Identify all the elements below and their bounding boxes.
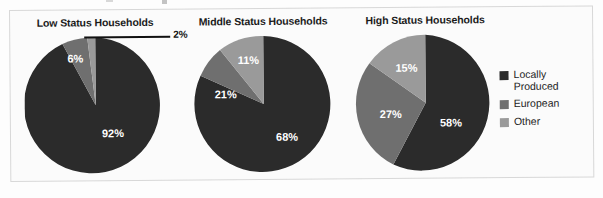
pie-value-label-european: 27% xyxy=(380,108,402,120)
pie-value-label-locally-produced: 68% xyxy=(276,131,298,143)
pie-value-label-other: 11% xyxy=(238,54,260,66)
legend-label-european: European xyxy=(514,98,560,110)
pie-graphic-low-status: 92% 6% xyxy=(24,34,167,177)
pie-svg-low-status: 92% 6% xyxy=(24,34,167,177)
pie-value-label-locally-produced: 58% xyxy=(440,116,462,128)
pie-chart-high-status: High Status Households 58% 27% 15% xyxy=(340,7,511,180)
figure-content: Low Status Households 92% 6% xyxy=(10,6,595,183)
legend-label-locally-produced: Locally Produced xyxy=(513,69,558,92)
top-text-remnant xyxy=(162,0,167,4)
legend-swatch-locally-produced xyxy=(499,71,508,80)
pie-svg-high-status: 58% 27% 15% xyxy=(354,31,497,174)
chart-title-middle-status: Middle Status Households xyxy=(178,14,348,27)
pie-value-label-other: 15% xyxy=(395,62,417,74)
pie-value-label-locally-produced: 92% xyxy=(102,127,124,139)
legend-item-other[interactable]: Other xyxy=(500,115,592,127)
pie-value-label-european: 21% xyxy=(215,88,237,100)
top-text-remnant xyxy=(106,0,113,2)
pie-chart-middle-status: Middle Status Households 68% 21% 11% xyxy=(178,8,349,181)
pie-chart-low-status: Low Status Households 92% 6% xyxy=(10,10,181,183)
legend-swatch-other xyxy=(500,118,509,127)
legend-item-locally-produced[interactable]: Locally Produced xyxy=(499,68,591,92)
pie-graphic-high-status: 58% 27% 15% xyxy=(354,31,497,174)
legend-item-european[interactable]: European xyxy=(500,97,592,109)
legend-swatch-european xyxy=(500,100,509,109)
pie-graphic-middle-status: 68% 21% 11% xyxy=(192,32,335,175)
chart-title-high-status: High Status Households xyxy=(340,13,510,26)
legend-label-other: Other xyxy=(514,115,540,127)
pie-svg-middle-status: 68% 21% 11% xyxy=(192,32,335,175)
figure-frame: Low Status Households 92% 6% xyxy=(9,5,594,182)
pie-value-label-european: 6% xyxy=(67,52,83,64)
chart-title-low-status: Low Status Households xyxy=(10,16,180,29)
chart-legend: Locally Produced European Other xyxy=(499,68,591,133)
scanned-page: Low Status Households 92% 6% xyxy=(0,0,603,198)
